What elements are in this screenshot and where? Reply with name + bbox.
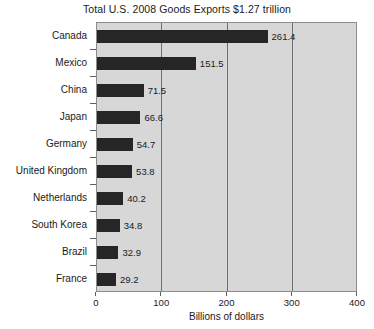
bar-value-label: 54.7 (137, 138, 156, 151)
y-axis-tick (90, 211, 96, 212)
y-axis-category-label: Mexico (55, 56, 87, 69)
chart-title: Total U.S. 2008 Goods Exports $1.27 tril… (0, 3, 374, 15)
bar-row: 66.6 (97, 104, 356, 131)
bar-row: 54.7 (97, 131, 356, 158)
bar (97, 246, 118, 259)
y-axis-tick (90, 238, 96, 239)
bar-value-label: 71.5 (148, 84, 167, 97)
bar-value-label: 151.5 (200, 57, 224, 70)
x-axis-tick (356, 292, 357, 296)
bar (97, 57, 196, 70)
bar (97, 30, 268, 43)
bar (97, 84, 144, 97)
y-axis-category-label: Brazil (62, 245, 87, 258)
y-axis-tick (90, 76, 96, 77)
y-axis-tick (90, 49, 96, 50)
bar-value-label: 34.8 (124, 219, 143, 232)
bar-row: 261.4 (97, 23, 356, 50)
y-axis-category-label: United Kingdom (16, 164, 87, 177)
x-axis-tick-label: 0 (76, 297, 116, 308)
x-axis-tick-label: 200 (207, 297, 247, 308)
x-axis-tick (291, 292, 292, 296)
x-axis-tick-label: 400 (337, 297, 374, 308)
y-axis-tick (90, 265, 96, 266)
y-axis-tick (90, 157, 96, 158)
bar (97, 138, 133, 151)
bar-value-label: 32.9 (122, 246, 141, 259)
x-axis-label: Billions of dollars (96, 311, 357, 322)
y-axis-category-label: Japan (60, 110, 87, 123)
bar (97, 273, 116, 286)
bar-row: 40.2 (97, 185, 356, 212)
bar (97, 219, 120, 232)
y-axis-category-label: Netherlands (33, 191, 87, 204)
y-axis-category-label: China (61, 83, 87, 96)
plot-area: 261.4151.571.566.654.753.840.234.832.929… (96, 22, 357, 292)
bar (97, 192, 123, 205)
bar-value-label: 53.8 (136, 165, 155, 178)
y-axis-category-label: Germany (46, 137, 87, 150)
y-axis-category-label: Canada (52, 29, 87, 42)
x-axis-tick (226, 292, 227, 296)
y-axis-tick (90, 184, 96, 185)
bar (97, 111, 140, 124)
x-axis-tick-label: 300 (272, 297, 312, 308)
bar-value-label: 29.2 (120, 273, 139, 286)
bar-row: 32.9 (97, 239, 356, 266)
x-axis-tick (160, 292, 161, 296)
y-axis-category-label: South Korea (31, 218, 87, 231)
x-axis-tick-label: 100 (141, 297, 181, 308)
bar-value-label: 40.2 (127, 192, 146, 205)
bar-chart-figure: Total U.S. 2008 Goods Exports $1.27 tril… (0, 0, 374, 329)
bar-row: 71.5 (97, 77, 356, 104)
bar-value-label: 66.6 (144, 111, 163, 124)
bar-row: 29.2 (97, 266, 356, 293)
y-axis-category-label: France (56, 272, 87, 285)
bar-row: 53.8 (97, 158, 356, 185)
bar-row: 151.5 (97, 50, 356, 77)
x-axis-tick (95, 292, 96, 296)
bar (97, 165, 132, 178)
bar-row: 34.8 (97, 212, 356, 239)
bar-value-label: 261.4 (272, 30, 296, 43)
y-axis-tick (90, 130, 96, 131)
y-axis-tick (90, 103, 96, 104)
